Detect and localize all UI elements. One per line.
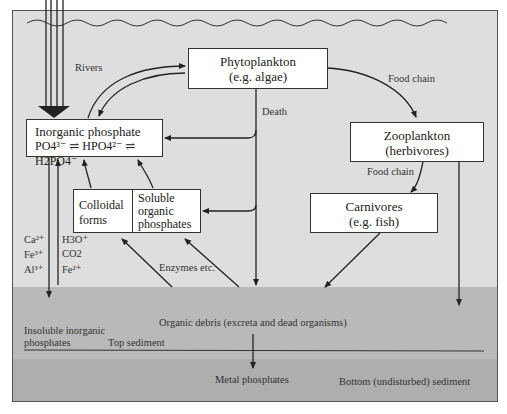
zooplankton-subtitle: (herbivores) — [351, 143, 483, 158]
colloidal-line2: forms — [79, 213, 132, 228]
node-zooplankton: Zooplankton (herbivores) — [350, 122, 484, 162]
phytoplankton-title: Phytoplankton — [189, 54, 327, 69]
water-surface-wave — [27, 20, 447, 26]
node-carnivores: Carnivores (e.g. fish) — [310, 193, 438, 233]
node-colloidal-forms: Colloidal forms — [73, 189, 133, 233]
phytoplankton-example: (e.g. algae) — [189, 69, 327, 84]
label-ion-fe2: Fe²⁺ — [62, 263, 81, 275]
colloidal-line1: Colloidal — [79, 198, 132, 213]
label-ion-al: Al³⁺ — [24, 263, 43, 275]
label-ion-fe3: Fe³⁺ — [24, 248, 43, 260]
node-phytoplankton: Phytoplankton (e.g. algae) — [188, 48, 328, 89]
label-bottom-sediment: Bottom (undisturbed) sediment — [339, 376, 470, 387]
inorganic-title: Inorganic phosphate — [35, 124, 162, 139]
label-rivers: Rivers — [75, 62, 102, 73]
label-insoluble-1: Insoluble inorganic — [24, 325, 105, 336]
label-ion-h3o: H3O⁺ — [62, 233, 88, 245]
inorganic-equilibrium: PO4³⁻ ⇌ HPO4²⁻ ⇌ H2PO4⁻ — [35, 139, 162, 169]
node-soluble-organic-phosphates: Soluble organic phosphates — [132, 189, 201, 233]
carnivores-title: Carnivores — [311, 199, 437, 214]
label-enzymes: Enzymes etc. — [159, 262, 215, 273]
label-organic-debris: Organic debris (excreta and dead organis… — [159, 317, 347, 328]
label-food-chain-2: Food chain — [367, 166, 414, 177]
carnivores-example: (e.g. fish) — [311, 214, 437, 229]
label-metal-phosphates: Metal phosphates — [215, 374, 289, 385]
label-top-sediment: Top sediment — [108, 337, 165, 348]
node-inorganic-phosphate: Inorganic phosphate PO4³⁻ ⇌ HPO4²⁻ ⇌ H2P… — [26, 119, 163, 157]
label-death: Death — [262, 106, 287, 117]
soluble-line3: phosphates — [138, 218, 200, 231]
label-ion-ca: Ca²⁺ — [24, 233, 44, 245]
label-food-chain-1: Food chain — [388, 73, 435, 84]
label-ion-co2: CO2 — [62, 248, 82, 259]
zooplankton-title: Zooplankton — [351, 128, 483, 143]
label-insoluble-2: phosphates — [24, 337, 71, 348]
rivers-arrow — [46, 0, 63, 106]
